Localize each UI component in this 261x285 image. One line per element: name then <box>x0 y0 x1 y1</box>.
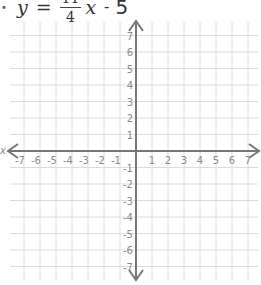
x-tick-label: -4 <box>63 155 73 166</box>
x-tick-label: 5 <box>213 155 219 166</box>
x-tick-label: -3 <box>79 155 89 166</box>
x-tick-label: -7 <box>15 155 25 166</box>
x-tick-label: 2 <box>165 155 171 166</box>
x-tick-label: 7 <box>245 155 251 166</box>
axes <box>8 21 259 280</box>
x-tick-label: 3 <box>181 155 187 166</box>
y-tick-label: -7 <box>123 262 133 273</box>
x-axis-label: x <box>0 145 6 156</box>
y-tick-label: 3 <box>127 97 133 108</box>
coordinate-grid[interactable]: x -7-6-5-4-3-2-11234567 7654321-1-2-3-4-… <box>0 0 261 285</box>
y-tick-label: -1 <box>123 163 133 174</box>
y-tick-label: 1 <box>127 130 133 141</box>
y-tick-label: 6 <box>127 47 133 58</box>
y-tick-label: 2 <box>127 113 133 124</box>
x-tick-label: -5 <box>47 155 57 166</box>
x-tick-label: -1 <box>111 155 121 166</box>
y-tick-label: -2 <box>123 179 133 190</box>
x-tick-label: -2 <box>95 155 105 166</box>
x-tick-label: -6 <box>31 155 41 166</box>
x-tick-labels: -7-6-5-4-3-2-11234567 <box>15 155 251 166</box>
x-tick-label: 4 <box>197 155 203 166</box>
y-tick-label: 5 <box>127 64 133 75</box>
x-tick-label: 6 <box>229 155 235 166</box>
y-tick-label: -6 <box>123 245 133 256</box>
y-tick-label: 4 <box>127 80 133 91</box>
y-tick-label: 7 <box>127 31 133 42</box>
y-tick-label: -4 <box>123 212 133 223</box>
y-tick-label: -3 <box>123 196 133 207</box>
y-tick-label: -5 <box>123 229 133 240</box>
x-tick-label: 1 <box>149 155 155 166</box>
